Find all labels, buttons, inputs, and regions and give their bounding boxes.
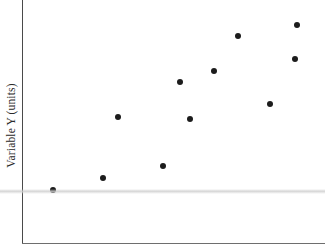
data-point — [267, 101, 273, 107]
data-point — [177, 79, 183, 85]
x-axis-label — [22, 244, 325, 251]
data-point — [292, 56, 298, 62]
data-point — [50, 187, 56, 193]
data-point — [211, 68, 217, 74]
data-point — [187, 116, 193, 122]
data-point — [100, 175, 106, 181]
plot-area — [0, 0, 325, 251]
data-point — [160, 163, 166, 169]
scatter-plot-figure: Variable Y (units) — [0, 0, 325, 251]
data-point — [115, 114, 121, 120]
data-point — [235, 33, 241, 39]
data-point — [294, 22, 300, 28]
